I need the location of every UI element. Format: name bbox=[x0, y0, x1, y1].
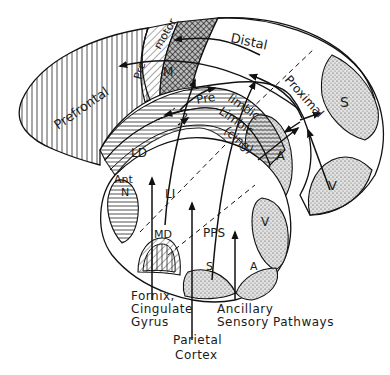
caption-fornix-2: Cingulate bbox=[131, 302, 193, 316]
caption-parietal-2: Cortex bbox=[175, 348, 218, 362]
label-n: N bbox=[121, 186, 129, 199]
label-ld: LD bbox=[131, 146, 147, 160]
label-somatic-cortex: S bbox=[340, 94, 349, 110]
label-thalamic-s: S bbox=[206, 260, 213, 273]
label-md: MD bbox=[154, 228, 172, 241]
label-li: LI bbox=[165, 187, 175, 201]
label-pps: PPS bbox=[203, 226, 225, 240]
label-thalamic-a: A bbox=[250, 260, 258, 273]
label-motor: M bbox=[163, 65, 173, 79]
label-visual-cortex: V bbox=[328, 178, 337, 193]
caption-fornix-1: Fornix, bbox=[131, 289, 175, 303]
caption-parietal-1: Parietal bbox=[173, 333, 222, 347]
label-auditory-cortex: A bbox=[276, 148, 285, 163]
caption-ancillary-2: Sensory Pathways bbox=[217, 315, 334, 329]
caption-fornix-3: Gyrus bbox=[131, 315, 169, 329]
label-thalamic-v: V bbox=[261, 215, 270, 229]
caption-ancillary-1: Ancillary bbox=[217, 302, 273, 316]
label-ant: Ant bbox=[114, 173, 133, 186]
cortex-thalamus-diagram: Prefrontal Pre motor M Distal Proximal S… bbox=[0, 0, 390, 375]
label-question: ? bbox=[182, 111, 188, 124]
